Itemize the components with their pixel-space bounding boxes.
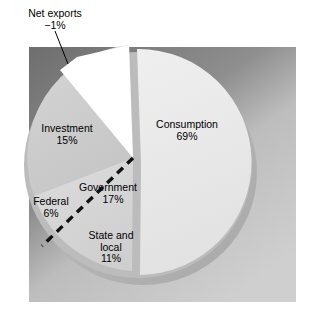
label-state-local: State and local 11% [71, 230, 151, 265]
label-federal-name: Federal [20, 196, 82, 208]
label-state-local-value: 11% [71, 253, 151, 265]
label-investment: Investment 15% [24, 123, 110, 146]
label-net-exports-name: Net exports [10, 8, 100, 20]
label-federal-value: 6% [20, 208, 82, 220]
pie-chart-canvas [0, 0, 309, 316]
label-consumption-name: Consumption [142, 119, 232, 131]
label-federal: Federal 6% [20, 196, 82, 219]
label-government-name: Government [66, 182, 150, 194]
label-net-exports: Net exports −1% [10, 8, 100, 31]
label-investment-name: Investment [24, 123, 110, 135]
label-government-value: 17% [76, 194, 150, 206]
label-consumption-value: 69% [142, 131, 232, 143]
label-net-exports-value: −1% [10, 20, 100, 32]
pie-chart-figure: Net exports −1% Consumption 69% Investme… [0, 0, 309, 316]
label-investment-value: 15% [24, 135, 110, 147]
label-consumption: Consumption 69% [142, 119, 232, 142]
label-state-local-name: State and [71, 230, 151, 242]
